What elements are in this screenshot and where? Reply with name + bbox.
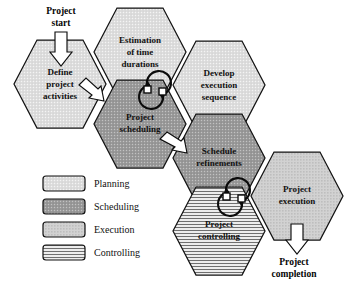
hexagon-label-line: Define xyxy=(48,67,73,77)
hexagon-label-line: refinements xyxy=(196,158,242,168)
flow-label-project-start: Project start xyxy=(46,6,76,28)
legend: Planning Scheduling Execution Controllin… xyxy=(43,176,140,260)
hexagon-label-line: Project xyxy=(205,219,233,229)
hexagon-label-line: Estimation xyxy=(119,35,161,45)
hexagon-label-line: execution xyxy=(279,196,316,206)
hexagon-label-line: of time xyxy=(127,47,154,57)
flow-label-line: Project xyxy=(46,6,76,16)
hexagon-label-line: controlling xyxy=(198,231,240,241)
legend-swatch-controlling xyxy=(43,245,85,260)
legend-label-planning: Planning xyxy=(94,178,130,189)
legend-item-scheduling[interactable]: Scheduling xyxy=(43,199,139,214)
hexagon-label-line: project xyxy=(46,79,73,89)
legend-label-execution: Execution xyxy=(94,224,135,235)
hexagon-label-line: durations xyxy=(121,59,159,69)
flow-label-line: completion xyxy=(272,269,318,279)
flow-label-project-completion: Project completion xyxy=(272,257,318,279)
hexagon-label-line: execution xyxy=(201,80,238,90)
flow-label-line: start xyxy=(52,18,72,28)
hexagon-flow-diagram: Define project activities Estimation of … xyxy=(0,0,344,291)
legend-item-planning[interactable]: Planning xyxy=(43,176,130,191)
hexagon-label-line: activities xyxy=(43,91,77,101)
hexagon-label-line: Project xyxy=(283,184,311,194)
legend-swatch-planning xyxy=(43,176,85,191)
legend-swatch-execution xyxy=(43,222,85,237)
hexagon-label-line: Schedule xyxy=(202,146,237,156)
legend-label-scheduling: Scheduling xyxy=(94,201,139,212)
hexagon-label-line: scheduling xyxy=(119,124,161,134)
diagram-canvas: Define project activities Estimation of … xyxy=(0,0,344,291)
hexagon-label-line: Project xyxy=(126,112,154,122)
flow-label-line: Project xyxy=(279,257,309,267)
legend-swatch-scheduling xyxy=(43,199,85,214)
hexagon-label-line: sequence xyxy=(202,92,237,102)
legend-label-controlling: Controlling xyxy=(94,247,140,258)
legend-item-execution[interactable]: Execution xyxy=(43,222,135,237)
hexagon-label-line: Develop xyxy=(204,68,235,78)
legend-item-controlling[interactable]: Controlling xyxy=(43,245,140,260)
